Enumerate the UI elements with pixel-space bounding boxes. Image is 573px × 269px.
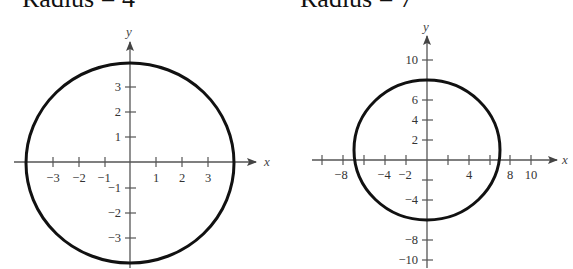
left-ytick-label: 1 — [115, 130, 121, 144]
left-ytick-label: −2 — [108, 206, 121, 220]
left-xtick-label: 2 — [179, 171, 185, 185]
left-ytick-label: −3 — [108, 231, 121, 245]
right-x-axis-label: x — [561, 152, 568, 167]
right-xtick-label: −8 — [334, 168, 347, 182]
circle-graphs: −3 −2 −1 1 2 3 3 2 1 −1 −2 −3 x y — [0, 0, 573, 269]
right-graph: −8 −4 −2 4 8 10 10 6 4 2 −4 −8 −10 x y — [312, 19, 568, 268]
right-xtick-label: 4 — [466, 168, 473, 182]
left-x-axis-label: x — [263, 154, 270, 169]
right-ytick-label: −8 — [405, 233, 418, 247]
right-ytick-label: 6 — [412, 93, 418, 107]
right-xtick-label: −2 — [398, 168, 411, 182]
right-xtick-label: 10 — [525, 168, 538, 182]
right-ytick-label: −4 — [405, 193, 419, 207]
left-xtick-label: 1 — [153, 171, 159, 185]
left-ytick-label: 3 — [115, 80, 121, 94]
left-y-axis-label: y — [124, 24, 132, 39]
left-xtick-label: −2 — [72, 171, 85, 185]
left-graph: −3 −2 −1 1 2 3 3 2 1 −1 −2 −3 x y — [14, 24, 270, 268]
right-ytick-label: 10 — [406, 53, 419, 67]
right-ytick-label: 2 — [412, 133, 418, 147]
left-xtick-label: −3 — [46, 171, 59, 185]
right-ytick-label: 4 — [412, 113, 419, 127]
left-ytick-label: −1 — [108, 181, 121, 195]
right-xtick-label: −4 — [377, 168, 391, 182]
left-ytick-label: 2 — [115, 105, 121, 119]
right-ytick-label: −10 — [398, 253, 418, 267]
left-xtick-label: 3 — [205, 171, 211, 185]
right-xtick-label: 8 — [507, 168, 513, 182]
right-y-axis-label: y — [421, 19, 429, 34]
